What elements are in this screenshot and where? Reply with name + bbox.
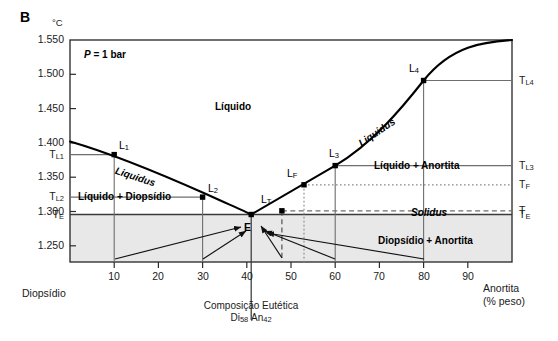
x-tick-30: 30 <box>183 271 223 282</box>
curve-label-solidus: Solidus <box>411 208 447 218</box>
point-label-L3: L3 <box>329 148 339 160</box>
point-L2-sub: 2 <box>214 186 218 195</box>
temp-TL4-sub: L4 <box>525 78 533 87</box>
x-tick-60: 60 <box>315 271 355 282</box>
temp-TE-right-sub: E <box>525 212 530 221</box>
x-tick-20: 20 <box>138 271 178 282</box>
x-axis-ticks <box>114 262 468 268</box>
y-tick-1400: 1.400 <box>18 137 64 148</box>
temp-label-TE-left: TE <box>24 209 64 221</box>
field-label-diopsidio-anortita: Diopsídio + Anortita <box>378 236 473 246</box>
point-label-LF: LF <box>287 168 297 180</box>
point-LF-sub: F <box>293 171 298 180</box>
x-tick-90: 90 <box>448 271 488 282</box>
x-axis-right-unit: (% peso) <box>483 296 525 307</box>
x-tick-80: 80 <box>404 271 444 282</box>
eutectic-di-sub: 58 <box>240 315 248 324</box>
field-label-liquido-diopsidio: Líquido + Diopsídio <box>78 192 171 202</box>
y-tick-1250: 1.250 <box>18 240 64 251</box>
point-L3-sub: 3 <box>335 151 339 160</box>
pressure-value: = 1 bar <box>91 49 126 60</box>
point-L2 <box>200 194 205 199</box>
point-LT-sub: T <box>267 197 272 206</box>
point-LT <box>279 208 284 213</box>
liquidus-curve-left <box>70 142 251 215</box>
x-tick-50: 50 <box>271 271 311 282</box>
temp-label-TF: TF <box>519 179 530 191</box>
x-axis-left-name: Diopsídio <box>22 288 66 299</box>
point-L3 <box>333 163 338 168</box>
y-tick-1550: 1.550 <box>18 34 64 45</box>
point-label-LT: LT <box>261 194 271 206</box>
eutectic-an-main: An <box>251 312 263 323</box>
temp-TL2-sub: L2 <box>56 194 64 203</box>
point-label-L2: L2 <box>208 183 218 195</box>
eutectic-an-sub: 42 <box>263 315 271 324</box>
x-tick-40: 40 <box>227 271 267 282</box>
point-label-L1: L1 <box>119 140 129 152</box>
field-label-liquido-anortita: Líquido + Anortita <box>374 161 459 171</box>
phase-diagram-figure: B °C 1.550 1.500 1.450 1.400 1.350 1.300… <box>0 0 558 341</box>
pressure-annotation: P = 1 bar <box>84 50 126 60</box>
x-axis-right-name: Anortita <box>483 283 519 294</box>
eutectic-caption: Composição Eutética Di58 An42 <box>181 300 321 325</box>
eutectic-caption-line1: Composição Eutética <box>181 300 321 312</box>
temp-label-TL4: TL4 <box>519 75 534 87</box>
field-label-liquido: Líquido <box>215 102 251 112</box>
point-L4-sub: 4 <box>415 66 419 75</box>
panel-label: B <box>20 10 30 24</box>
point-L1-sub: 1 <box>125 143 129 152</box>
temp-label-TE-right: TE <box>519 209 530 221</box>
point-label-L4: L4 <box>409 63 419 75</box>
temp-TE-left-sub: E <box>59 212 64 221</box>
point-E <box>249 212 254 217</box>
temp-TF-sub: F <box>525 182 530 191</box>
x-tick-70: 70 <box>359 271 399 282</box>
point-L4 <box>421 78 426 83</box>
point-L1 <box>112 152 117 157</box>
temp-label-TL2: TL2 <box>24 191 64 203</box>
y-tick-1450: 1.450 <box>18 103 64 114</box>
temp-label-TL1: TL1 <box>24 149 64 161</box>
temp-label-TL3: TL3 <box>519 160 534 172</box>
point-LF <box>301 182 306 187</box>
y-tick-1350: 1.350 <box>18 171 64 182</box>
pressure-symbol: P <box>84 49 91 60</box>
y-axis-units: °C <box>52 18 63 28</box>
point-label-E: E <box>244 222 251 233</box>
x-tick-10: 10 <box>94 271 134 282</box>
temp-TL1-sub: L1 <box>56 152 64 161</box>
y-tick-1500: 1.500 <box>18 68 64 79</box>
temp-TL3-sub: L3 <box>525 163 533 172</box>
eutectic-di-main: Di <box>230 312 239 323</box>
eutectic-caption-composition: Di58 An42 <box>181 312 321 325</box>
